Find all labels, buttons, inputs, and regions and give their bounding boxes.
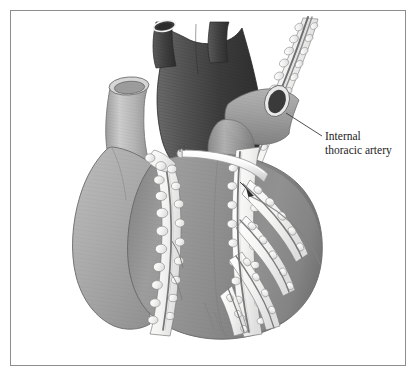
figure-root: Internal thoracic artery <box>0 0 417 380</box>
heart-illustration: Internal thoracic artery <box>0 0 417 380</box>
label-line-1: Internal <box>325 130 361 142</box>
leader-line <box>286 113 322 136</box>
label-line-2: thoracic artery <box>325 144 392 157</box>
annotation-internal-thoracic-artery: Internal thoracic artery <box>286 113 392 157</box>
